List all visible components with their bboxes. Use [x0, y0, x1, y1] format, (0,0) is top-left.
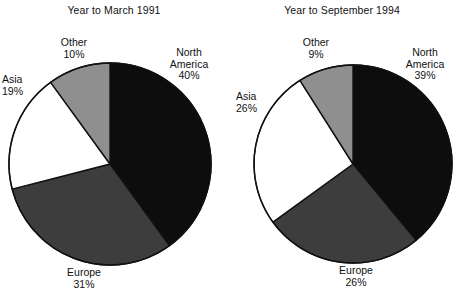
slice-label-asia-value: 26% [236, 103, 278, 115]
pie-slices-1994 [254, 65, 452, 263]
slice-label-asia: Asia 26% [236, 91, 278, 114]
slice-label-europe-value: 31% [58, 279, 110, 291]
slice-label-north-america: North America 39% [396, 47, 454, 82]
slice-label-asia-value: 19% [2, 86, 42, 98]
pie-svg-1994 [228, 0, 456, 294]
chart-title-1994: Year to September 1994 [228, 4, 456, 17]
slice-label-europe: Europe 26% [328, 265, 384, 288]
slice-label-asia-name: Asia [2, 73, 22, 85]
slice-label-asia: Asia 19% [2, 74, 42, 97]
pie-slice-europe [273, 164, 416, 263]
pie-panel-1991: Year to March 1991 Other 10% Asia 19% No… [0, 0, 228, 294]
pie-slice-other [51, 63, 110, 164]
pie-slice-north-america [353, 65, 452, 240]
slice-label-other-value: 10% [48, 49, 100, 61]
slice-label-europe-name: Europe [339, 264, 373, 276]
pie-slice-asia [9, 82, 110, 189]
slice-label-europe-value: 26% [328, 277, 384, 289]
slice-label-north-america-name: North [412, 46, 438, 58]
pie-slice-other [300, 65, 353, 164]
slice-label-europe: Europe 31% [58, 267, 110, 290]
slice-label-europe-name: Europe [67, 266, 101, 278]
pie-outline-1994 [254, 65, 452, 263]
chart-title-1991: Year to March 1991 [0, 4, 228, 17]
slice-label-other-name: Other [61, 36, 87, 48]
slice-label-other: Other 10% [48, 37, 100, 60]
pie-panel-1994: Year to September 1994 Other 9% Asia 26%… [228, 0, 456, 294]
slice-label-other: Other 9% [290, 37, 342, 60]
pie-graphic-1994 [228, 0, 456, 294]
pie-slice-europe [12, 164, 169, 265]
pie-chart-figure: { "figure": { "background": "#ffffff", "… [0, 0, 456, 294]
slice-label-asia-name: Asia [236, 90, 256, 102]
slice-label-other-name: Other [303, 36, 329, 48]
slice-label-other-value: 9% [290, 49, 342, 61]
pie-svg-1991 [0, 0, 228, 294]
pie-graphic-1991 [0, 0, 228, 294]
pie-slice-north-america [110, 63, 211, 246]
slice-label-north-america-value: 39% [396, 70, 454, 82]
slice-label-north-america: North America 40% [160, 47, 218, 82]
slice-label-north-america-name: North [176, 46, 202, 58]
slice-label-north-america-value: 40% [160, 70, 218, 82]
